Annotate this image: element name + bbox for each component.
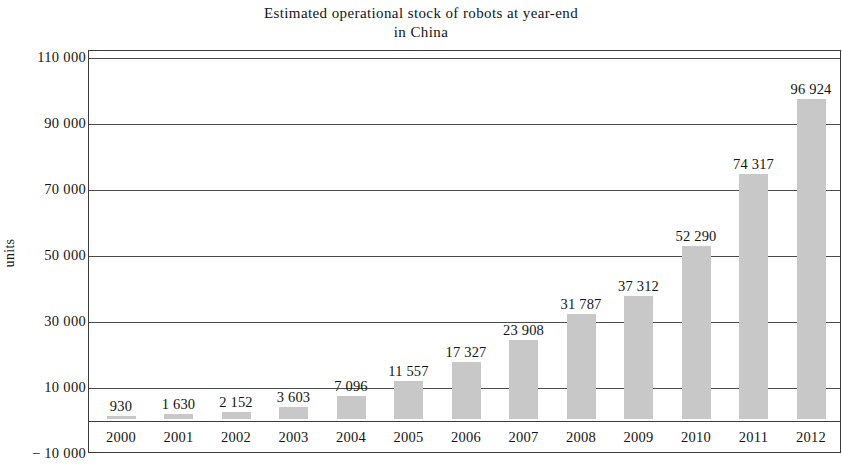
x-axis-tick-label: 2003 [264, 429, 324, 446]
y-axis-tick-label: 110 000 [0, 49, 86, 66]
x-axis-tick-label: 2010 [666, 429, 726, 446]
y-axis-tick-label: − 10 000 [0, 445, 86, 462]
y-axis-tick-label: 50 000 [0, 247, 86, 264]
x-axis-tick-label: 2012 [781, 429, 841, 446]
plot-area: 9301 6302 1523 6037 09611 55717 32723 90… [88, 50, 841, 453]
x-axis-tick-label: 2005 [379, 429, 439, 446]
y-axis-tick-label: 30 000 [0, 313, 86, 330]
chart-title-line1: Estimated operational stock of robots at… [264, 5, 578, 21]
x-axis-tick-label: 2011 [724, 429, 784, 446]
x-axis-tick-label: 2000 [91, 429, 151, 446]
x-axis-tick-label: 2004 [321, 429, 381, 446]
x-axis-tick-label: 2009 [609, 429, 669, 446]
chart-title: Estimated operational stock of robots at… [0, 4, 842, 42]
y-axis-tick-labels: 110 00090 00070 00050 00030 00010 000− 1… [0, 0, 86, 468]
x-axis-tick-label: 2001 [149, 429, 209, 446]
x-axis-tick-label: 2006 [436, 429, 496, 446]
y-axis-tick-label: 90 000 [0, 115, 86, 132]
x-axis-tick-label: 2008 [551, 429, 611, 446]
chart-title-line2: in China [0, 23, 842, 42]
y-axis-tick-label: 70 000 [0, 181, 86, 198]
x-axis-tick-label: 2002 [206, 429, 266, 446]
y-axis-tick-label: 10 000 [0, 379, 86, 396]
x-axis-tick-label: 2007 [494, 429, 554, 446]
x-axis-tick-labels: 2000200120022003200420052006200720082009… [89, 51, 840, 452]
